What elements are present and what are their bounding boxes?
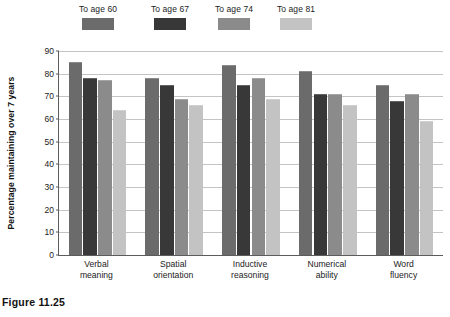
legend-label: To age 67 <box>134 4 206 15</box>
y-tick-label-80: 80 <box>45 69 54 79</box>
bar[interactable] <box>113 110 127 255</box>
bar-group <box>289 51 366 255</box>
bar-group <box>213 51 290 255</box>
x-axis-label-line: Numerical <box>288 259 365 270</box>
figure-11-25: To age 60 To age 67 To age 74 To age 81 … <box>0 0 450 317</box>
bar[interactable] <box>189 105 203 255</box>
bar[interactable] <box>83 78 97 255</box>
y-tick-label-20: 20 <box>45 205 54 215</box>
bar-top-highlight <box>266 99 280 100</box>
y-tick-label-30: 30 <box>45 182 54 192</box>
y-tick-label-50: 50 <box>45 137 54 147</box>
x-axis-label: Verbalmeaning <box>58 259 135 281</box>
y-tick-label-60: 60 <box>45 114 54 124</box>
bar[interactable] <box>222 65 236 255</box>
y-tick-label-70: 70 <box>45 91 54 101</box>
x-axis-label-line: meaning <box>58 270 135 281</box>
bar-top-highlight <box>113 110 127 111</box>
bar[interactable] <box>343 105 357 255</box>
x-axis-label-line: ability <box>288 270 365 281</box>
x-axis-label-line: Inductive <box>212 259 289 270</box>
x-axis-label-line: Spatial <box>135 259 212 270</box>
y-tick-label-10: 10 <box>45 227 54 237</box>
bar[interactable] <box>160 85 174 255</box>
bar[interactable] <box>266 99 280 255</box>
figure-caption: Figure 11.25 <box>2 296 65 308</box>
x-axis-label: Spatialorientation <box>135 259 212 281</box>
legend-swatch-to-age-67 <box>154 18 186 30</box>
y-tick-label-90: 90 <box>45 46 54 56</box>
bar-top-highlight <box>420 121 434 122</box>
x-axis-label-line: orientation <box>135 270 212 281</box>
y-axis-title: Percentage maintaining over 7 years <box>6 51 20 255</box>
bar-top-highlight <box>299 71 313 72</box>
bar-top-highlight <box>189 105 203 106</box>
bar-top-highlight <box>160 85 174 86</box>
bar-top-highlight <box>314 94 328 95</box>
bar[interactable] <box>98 80 112 255</box>
bar-top-highlight <box>376 85 390 86</box>
legend-swatch-to-age-60 <box>82 18 114 30</box>
legend-label: To age 60 <box>62 4 134 15</box>
bar-top-highlight <box>145 78 159 79</box>
legend-item-1[interactable]: To age 67 <box>134 4 206 30</box>
legend-item-3[interactable]: To age 81 <box>263 4 329 30</box>
plot-area: 9080706050403020100 <box>58 51 443 256</box>
bar-top-highlight <box>328 94 342 95</box>
bar[interactable] <box>420 121 434 255</box>
bar-top-highlight <box>98 80 112 81</box>
x-axis-label: Numericalability <box>288 259 365 281</box>
x-axis-label-line: Verbal <box>58 259 135 270</box>
bar-top-highlight <box>252 78 266 79</box>
legend-item-0[interactable]: To age 60 <box>62 4 134 30</box>
bar-group <box>136 51 213 255</box>
bar-top-highlight <box>390 101 404 102</box>
x-axis-label-line: Word <box>365 259 442 270</box>
bar[interactable] <box>390 101 404 255</box>
bar[interactable] <box>237 85 251 255</box>
bar-top-highlight <box>405 94 419 95</box>
bar[interactable] <box>69 62 83 255</box>
bar[interactable] <box>314 94 328 255</box>
bar-top-highlight <box>343 105 357 106</box>
chart-legend: To age 60 To age 67 To age 74 To age 81 <box>62 4 302 44</box>
x-axis-label: Inductivereasoning <box>212 259 289 281</box>
bar[interactable] <box>299 71 313 255</box>
bar[interactable] <box>145 78 159 255</box>
legend-swatch-to-age-81 <box>280 18 312 30</box>
bar-top-highlight <box>69 62 83 63</box>
bar[interactable] <box>175 99 189 255</box>
legend-label: To age 74 <box>201 4 267 15</box>
bar-top-highlight <box>237 85 251 86</box>
bar-group <box>59 51 136 255</box>
x-axis-label-line: reasoning <box>212 270 289 281</box>
x-axis-label: Wordfluency <box>365 259 442 281</box>
bar[interactable] <box>328 94 342 255</box>
bar[interactable] <box>252 78 266 255</box>
bar-group <box>366 51 443 255</box>
bar-top-highlight <box>83 78 97 79</box>
legend-swatch-to-age-74 <box>218 18 250 30</box>
bar-top-highlight <box>175 99 189 100</box>
bar[interactable] <box>376 85 390 255</box>
x-axis-label-line: fluency <box>365 270 442 281</box>
legend-label: To age 81 <box>263 4 329 15</box>
y-tick-label-40: 40 <box>45 159 54 169</box>
y-tick-label-0: 0 <box>49 250 54 260</box>
legend-item-2[interactable]: To age 74 <box>201 4 267 30</box>
caption-rule <box>0 293 450 294</box>
bar[interactable] <box>405 94 419 255</box>
bar-top-highlight <box>222 65 236 66</box>
